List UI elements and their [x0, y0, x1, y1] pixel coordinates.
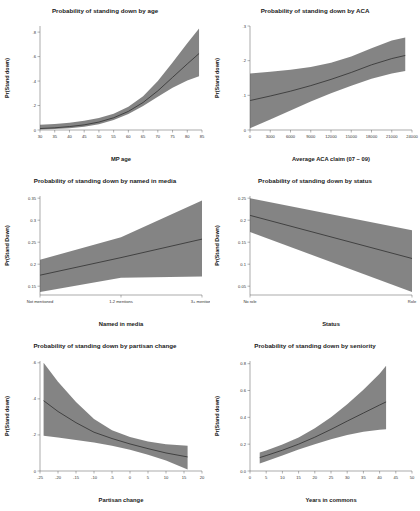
x-tick-label: 12000: [325, 134, 337, 139]
x-tick-label: 0: [249, 134, 252, 139]
y-tick-label: 0.25: [28, 240, 37, 245]
x-axis-label: Years in commons: [305, 497, 356, 503]
y-tick-label: 0.05: [238, 284, 247, 289]
y-tick-label: .1: [243, 93, 247, 98]
panel-named-in-media: Probability of standing down by named in…: [0, 170, 210, 335]
panel-age: Probability of standing down by age0.2.4…: [0, 0, 210, 170]
x-axis-label: Named in media: [99, 321, 144, 327]
x-tick-label: 18000: [366, 134, 378, 139]
x-tick-label: 70: [156, 134, 161, 139]
y-tick-label: 0.35: [28, 196, 37, 201]
confidence-band: [40, 28, 199, 129]
y-tick-label: .2: [243, 58, 247, 63]
x-tick-label: 15: [182, 475, 187, 480]
x-tick-label: -10: [91, 475, 98, 480]
y-tick-label: .4: [33, 79, 37, 84]
panel-seniority: Probability of standing down by seniorit…: [210, 335, 420, 511]
x-tick-label: 10: [280, 475, 285, 480]
x-tick-label: 40: [67, 134, 72, 139]
y-tick-label: .6: [33, 54, 37, 59]
y-tick-label: .4: [33, 396, 37, 401]
y-tick-label: 0.2: [30, 262, 36, 267]
x-tick-label: 20: [200, 475, 205, 480]
x-tick-label: 5: [147, 475, 150, 480]
x-tick-label: 50: [97, 134, 102, 139]
x-tick-label: 20: [313, 475, 318, 480]
y-tick-label: 0: [244, 128, 247, 133]
y-tick-label: 0.8: [240, 361, 246, 366]
y-tick-label: .6: [33, 360, 37, 365]
x-tick-label: -5: [110, 475, 114, 480]
x-tick-label: 65: [141, 134, 146, 139]
confidence-band: [260, 366, 386, 464]
y-axis-label: Pr(Stand down): [214, 396, 220, 436]
panel-title: Probability of standing down by partisan…: [33, 342, 177, 349]
x-tick-label: 24000: [406, 134, 418, 139]
y-tick-label: .3: [243, 24, 247, 29]
y-axis-label: Pr(Stand Down): [4, 225, 10, 266]
x-tick-label: Not mentioned: [27, 299, 54, 304]
x-tick-label: 45: [82, 134, 87, 139]
x-tick-label: 3000: [266, 134, 276, 139]
x-tick-label: 25: [329, 475, 334, 480]
x-tick-label: 15: [296, 475, 301, 480]
x-tick-label: 0: [129, 475, 132, 480]
panel-status: Probability of standing down by status0.…: [210, 170, 420, 335]
x-axis-label: MP age: [111, 156, 132, 162]
panel-title: Probability of standing down by status: [258, 177, 372, 184]
x-tick-label: -20: [55, 475, 62, 480]
x-tick-label: 50: [410, 475, 415, 480]
y-tick-label: 0.2: [240, 442, 246, 447]
y-tick-label: 0: [34, 469, 37, 474]
x-tick-label: 45: [394, 475, 399, 480]
panel-title: Probability of standing down by age: [52, 7, 159, 14]
x-tick-label: 3+ mentions: [191, 299, 210, 304]
y-axis-label: Pr(Stand down): [4, 396, 10, 436]
confidence-band: [250, 37, 405, 128]
panel-title: Probability of standing down by ACA: [261, 7, 370, 14]
y-tick-label: 0.15: [28, 284, 37, 289]
x-tick-label: 85: [200, 134, 205, 139]
x-tick-label: 6000: [286, 134, 296, 139]
x-tick-label: No role: [243, 299, 257, 304]
x-tick-label: 10: [164, 475, 169, 480]
x-tick-label: 35: [361, 475, 366, 480]
x-tick-label: 40: [377, 475, 382, 480]
x-tick-label: 30: [345, 475, 350, 480]
y-tick-label: .8: [33, 30, 37, 35]
x-tick-label: 35: [52, 134, 57, 139]
x-tick-label: -25: [37, 475, 44, 480]
x-axis-label: Average ACA claim (07 − 09): [292, 156, 370, 162]
x-tick-label: -15: [73, 475, 80, 480]
x-tick-label: 9000: [306, 134, 316, 139]
y-tick-label: 0.25: [238, 196, 247, 201]
y-axis-label: Pr(Stand down): [214, 58, 220, 98]
x-tick-label: 80: [185, 134, 190, 139]
x-tick-label: 55: [111, 134, 116, 139]
x-tick-label: 0: [249, 475, 252, 480]
y-tick-label: 0.4: [240, 415, 246, 420]
panel-aca: Probability of standing down by ACA0.1.2…: [210, 0, 420, 170]
y-axis-label: Pr(Stand Down): [214, 225, 220, 266]
panel-partisan-change: Probability of standing down by partisan…: [0, 335, 210, 511]
x-tick-label: 15000: [346, 134, 358, 139]
x-tick-label: Role: [408, 299, 417, 304]
y-tick-label: 0.0: [240, 469, 246, 474]
y-tick-label: 0.2: [240, 218, 246, 223]
y-tick-label: 0.6: [240, 388, 246, 393]
y-tick-label: .2: [33, 103, 37, 108]
confidence-band: [250, 198, 412, 292]
y-tick-label: 0.15: [238, 240, 247, 245]
y-tick-label: 0: [34, 128, 37, 133]
x-axis-label: Partisan change: [99, 497, 145, 503]
y-tick-label: 0.3: [30, 218, 36, 223]
x-tick-label: 30: [38, 134, 43, 139]
x-tick-label: 5: [265, 475, 268, 480]
y-axis-label: Pr(Stand down): [4, 58, 10, 98]
y-tick-label: 0.1: [240, 262, 246, 267]
panel-title: Probability of standing down by seniorit…: [254, 342, 376, 349]
panel-title: Probability of standing down by named in…: [34, 177, 177, 184]
x-tick-label: 75: [170, 134, 175, 139]
x-tick-label: 60: [126, 134, 131, 139]
y-tick-label: .2: [33, 432, 37, 437]
